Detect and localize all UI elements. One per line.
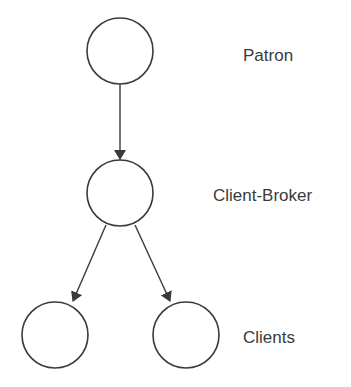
- node-client-left: [22, 302, 88, 368]
- hierarchy-diagram: Patron Client-Broker Clients: [0, 0, 351, 387]
- edge-broker-to-client-right: [135, 225, 170, 301]
- label-client-broker: Client-Broker: [213, 186, 313, 205]
- node-client-broker: [87, 160, 153, 226]
- label-patron: Patron: [243, 46, 293, 65]
- node-client-right: [153, 302, 219, 368]
- label-clients: Clients: [243, 328, 295, 347]
- edge-broker-to-client-left: [73, 225, 106, 301]
- node-patron: [87, 18, 153, 84]
